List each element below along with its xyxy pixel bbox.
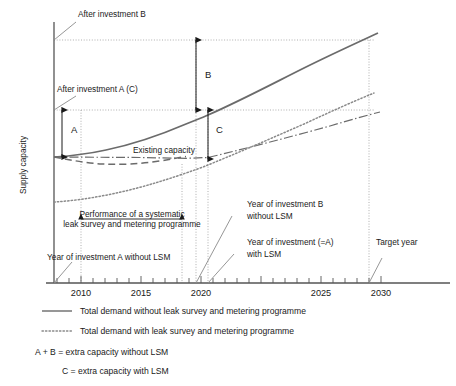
supply-capacity-diagram: 2010 2015 2020 2025 2030 Supply capacity… [0, 0, 456, 386]
legend-label-dotted: Total demand with leak survey and meteri… [80, 326, 294, 336]
diagram-canvas: 2010 2015 2020 2025 2030 Supply capacity… [0, 0, 456, 386]
x-tick-label-2030: 2030 [371, 288, 391, 298]
x-tick-label-2015: 2015 [131, 288, 151, 298]
annotation-performance-line-1: Performance of a systematic [79, 209, 184, 219]
y-axis-title: Supply capacity [18, 135, 28, 194]
legend-note-c: C = extra capacity with LSM [62, 366, 169, 376]
dim-label-c: C [216, 124, 223, 135]
annotation-performance-line-2: leak survey and metering programme [63, 219, 201, 229]
annotation-year-investment-a-without-lsm: Year of investment A without LSM [47, 252, 170, 262]
x-tick-label-2020: 2020 [191, 288, 211, 298]
annotation-after-investment-b: After investment B [78, 9, 146, 19]
annotation-target-year: Target year [376, 237, 418, 247]
legend-label-solid: Total demand without leak survey and met… [80, 306, 306, 316]
annotation-after-investment-a-c: After investment A (C) [57, 84, 138, 94]
x-tick-label-2010: 2010 [71, 288, 91, 298]
dim-label-b: B [205, 69, 211, 80]
annotation-year-investment-a-with-lsm-line-2: with LSM [246, 249, 281, 259]
x-tick-label-2025: 2025 [311, 288, 331, 298]
annotation-year-investment-b-without-lsm-line-1: Year of investment B [247, 199, 324, 209]
annotation-year-investment-b-without-lsm-line-2: without LSM [246, 211, 293, 221]
legend-note-a-plus-b: A + B = extra capacity without LSM [35, 347, 168, 357]
dim-label-a: A [71, 124, 78, 135]
annotation-year-investment-a-with-lsm-line-1: Year of investment (=A) [247, 237, 334, 247]
annotation-existing-capacity: Existing capacity [133, 145, 196, 155]
